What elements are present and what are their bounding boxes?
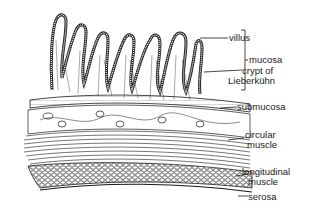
villi-layer xyxy=(51,15,202,100)
label-submucosa: submucosa xyxy=(237,102,286,111)
label-crypt-line2: Lieberkühn xyxy=(228,76,275,85)
submucosa-layer xyxy=(28,105,250,138)
label-villus: villus xyxy=(229,33,250,42)
label-circular-line2: muscle xyxy=(247,140,277,149)
label-circular-line1: circular xyxy=(245,130,276,139)
label-mucosa: mucosa xyxy=(249,55,282,64)
label-longitudinal-line1: longitudinal xyxy=(242,167,290,176)
label-longitudinal-line2: muscle xyxy=(248,177,278,186)
label-crypt-line1: crypt of xyxy=(242,66,273,75)
intestinal-wall-diagram: villus mucosa crypt of Lieberkühn submuc… xyxy=(0,0,309,212)
label-serosa: serosa xyxy=(248,192,277,201)
circular-muscle-layer xyxy=(24,131,250,168)
